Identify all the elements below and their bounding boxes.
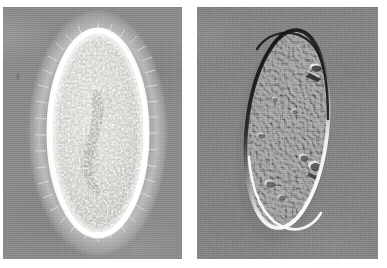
film-grain [3,7,182,259]
dic-panel [197,7,378,259]
film-grain [197,7,378,259]
phase-contrast-panel [3,7,182,259]
micrograph-figure [0,0,387,268]
